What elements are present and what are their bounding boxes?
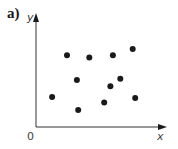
data-point	[86, 55, 92, 61]
data-point	[74, 77, 80, 83]
data-point	[75, 107, 81, 113]
data-point	[49, 94, 55, 100]
origin-label: 0	[27, 130, 34, 143]
data-point	[117, 76, 123, 82]
data-point	[132, 95, 138, 101]
data-point	[64, 52, 70, 58]
y-axis-label: y	[26, 11, 34, 24]
data-point	[101, 99, 107, 105]
data-points	[49, 46, 138, 113]
scatter-plot: y 0 x	[0, 0, 178, 149]
data-point	[110, 52, 116, 58]
data-point	[130, 46, 136, 52]
y-axis	[33, 13, 39, 127]
y-axis-arrow-icon	[33, 13, 39, 22]
x-axis	[36, 124, 167, 130]
x-axis-label: x	[156, 130, 164, 143]
data-point	[107, 83, 113, 89]
